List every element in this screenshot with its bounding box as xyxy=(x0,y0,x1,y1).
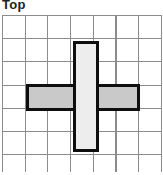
top-view-diagram: Top xyxy=(0,0,163,175)
figure-label: Top xyxy=(2,0,26,13)
vertical-bar-shape xyxy=(73,41,99,152)
